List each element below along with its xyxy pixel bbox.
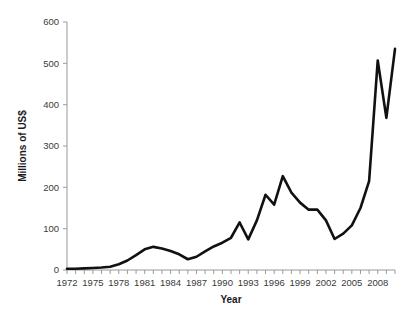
x-tick-label: 1993 xyxy=(238,277,259,288)
x-tick-label: 1984 xyxy=(160,277,181,288)
x-tick-label: 1996 xyxy=(264,277,285,288)
x-tick-label: 2008 xyxy=(367,277,388,288)
x-axis-title: Year xyxy=(220,294,241,305)
x-tick-label: 2002 xyxy=(315,277,336,288)
y-tick-label: 600 xyxy=(43,16,59,27)
y-tick-label: 400 xyxy=(43,99,59,110)
x-tick-label: 1990 xyxy=(212,277,233,288)
line-chart: 0100200300400500600 19721975197819811984… xyxy=(0,0,414,319)
x-tick-label: 1975 xyxy=(82,277,103,288)
x-tick-label: 1978 xyxy=(108,277,129,288)
y-tick-label: 0 xyxy=(54,264,59,275)
x-tick-label: 1972 xyxy=(56,277,77,288)
y-tick-label: 300 xyxy=(43,140,59,151)
x-tick-label: 2005 xyxy=(341,277,362,288)
chart-container: 0100200300400500600 19721975197819811984… xyxy=(0,0,414,319)
y-tick-label: 100 xyxy=(43,223,59,234)
x-tick-label: 1981 xyxy=(134,277,155,288)
x-tick-label: 1999 xyxy=(289,277,310,288)
y-tick-label: 500 xyxy=(43,58,59,69)
y-tick-label: 200 xyxy=(43,182,59,193)
y-axis-title: Millions of US$ xyxy=(17,110,28,182)
x-tick-label: 1987 xyxy=(186,277,207,288)
